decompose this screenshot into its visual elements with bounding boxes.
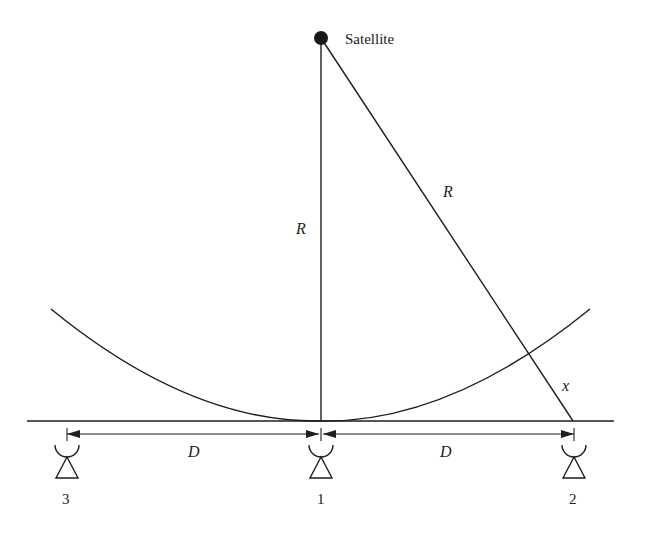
antenna-dish-icon — [55, 445, 79, 478]
antenna-dish-icon — [562, 445, 586, 478]
station-3: 3 — [55, 445, 79, 507]
slant-range-label: R — [442, 183, 453, 200]
station-1: 1 — [309, 445, 333, 507]
distance-right-label: D — [439, 443, 452, 460]
station-2: 2 — [562, 445, 586, 507]
vertical-range-label: R — [295, 220, 306, 237]
satellite-icon — [314, 31, 328, 45]
station-1-label: 1 — [317, 491, 325, 507]
antenna-dish-icon — [309, 445, 333, 478]
slant-range-line — [321, 38, 573, 421]
station-3-label: 3 — [62, 491, 70, 507]
satellite-geometry-diagram: Satellite R R x D D 3 1 — [0, 0, 645, 535]
station-2-label: 2 — [569, 491, 577, 507]
dimension-right: D — [321, 428, 574, 460]
dimension-left: D — [67, 428, 319, 460]
difference-label: x — [561, 377, 569, 394]
distance-left-label: D — [187, 443, 200, 460]
satellite-label: Satellite — [345, 31, 394, 47]
